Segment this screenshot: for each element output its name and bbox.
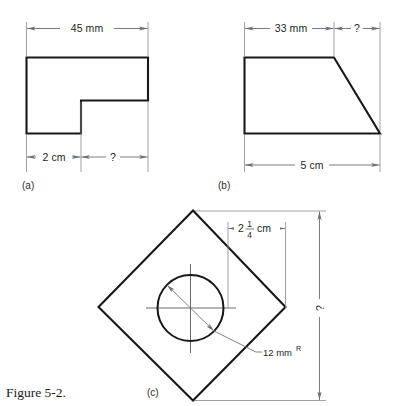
part-c-diamond-outline xyxy=(99,211,286,401)
part-b-dim-label-top-width: 33 mm xyxy=(275,22,308,34)
engineering-drawing-canvas: 45 mm 2 cm ? (a) 3 xyxy=(0,0,401,406)
part-b-group: 33 mm ? 5 cm (b) xyxy=(218,21,380,191)
part-c-dim-label-offset-unit: cm xyxy=(257,222,271,234)
part-a-dim-label-left-segment: 2 cm xyxy=(42,151,65,163)
part-c-dim-label-offset-denominator: 4 xyxy=(247,230,252,240)
part-b-trapezoid-outline xyxy=(245,58,381,134)
part-b-label: (b) xyxy=(218,180,230,191)
part-c-dim-label-hole-radius: 12 mm xyxy=(263,347,292,358)
part-b-dim-label-base-width: 5 cm xyxy=(300,159,323,171)
part-c-hole-leader-tail xyxy=(214,331,256,352)
part-c-dim-label-hole-radius-superscript: R xyxy=(296,344,301,353)
part-c-group: 12 mm R 2 1 4 cm ? (c) xyxy=(99,211,328,401)
part-a-label: (a) xyxy=(22,180,34,191)
part-a-group: 45 mm 2 cm ? (a) xyxy=(22,21,148,191)
part-b-dim-label-unknown-width: ? xyxy=(354,22,360,34)
part-c-dim-label-offset-numerator: 1 xyxy=(247,219,252,229)
part-c-dim-label-unknown-height: ? xyxy=(314,305,326,311)
figure-5-2-container: 45 mm 2 cm ? (a) 3 xyxy=(0,0,401,406)
part-a-l-shape-outline xyxy=(27,58,149,134)
part-a-dim-label-unknown-width: ? xyxy=(110,151,116,163)
part-a-dim-label-overall-width: 45 mm xyxy=(71,22,104,34)
figure-caption: Figure 5-2. xyxy=(6,385,66,400)
part-c-dim-label-offset-whole: 2 xyxy=(238,222,244,234)
part-c-label: (c) xyxy=(147,387,159,398)
